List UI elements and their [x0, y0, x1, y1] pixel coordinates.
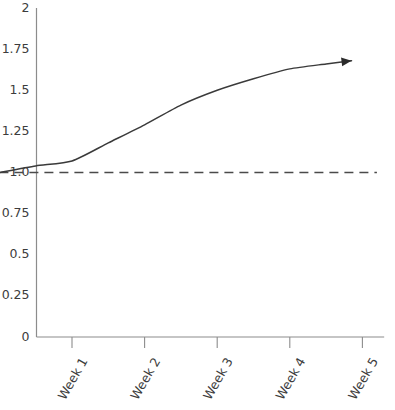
y-tick-label-8: 2	[22, 0, 30, 15]
y-tick-label-1: 0.25	[2, 287, 30, 302]
y-tick-label-4: 1.0	[10, 164, 30, 179]
x-tick-label-4: Week 4	[272, 355, 308, 403]
trend-line	[0, 61, 352, 173]
x-tick-labels: Week 1Week 2Week 3Week 4Week 5	[55, 355, 381, 403]
y-tick-label-0: 0	[22, 329, 30, 344]
x-tick-label-2: Week 2	[127, 355, 163, 402]
x-tick-marks	[72, 337, 362, 348]
y-tick-label-3: 0.75	[2, 205, 30, 220]
line-chart: 00.250.50.751.01.251.51.752 Week 1Week 2…	[0, 0, 395, 410]
y-tick-label-6: 1.5	[10, 82, 30, 97]
trend-arrow-head	[341, 58, 351, 67]
y-tick-label-5: 1.25	[2, 123, 30, 138]
x-tick-label-1: Week 1	[55, 355, 91, 402]
y-tick-label-7: 1.75	[2, 41, 30, 56]
y-tick-label-2: 0.5	[10, 246, 30, 261]
chart-canvas: 00.250.50.751.01.251.51.752 Week 1Week 2…	[0, 0, 395, 410]
x-tick-label-5: Week 5	[345, 355, 381, 402]
x-tick-label-3: Week 3	[200, 355, 236, 402]
